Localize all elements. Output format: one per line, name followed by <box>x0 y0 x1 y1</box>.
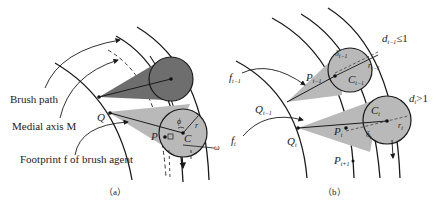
label-r-prev: rt−1 <box>368 62 380 71</box>
stroke-boundary-1-b <box>236 61 307 178</box>
label-f-t: ft <box>231 135 236 147</box>
diagram-canvas <box>0 0 442 205</box>
label-f-prev: ft−1 <box>229 72 241 84</box>
caption-b: （b） <box>323 188 346 197</box>
label-P-t: Pt <box>334 126 342 138</box>
label-omega: ω <box>214 144 220 152</box>
label-delta-t: δt <box>366 131 371 140</box>
label-d-prev: dt−1≤1 <box>382 33 408 45</box>
label-C: C <box>184 133 191 144</box>
label-delta-prev: δt−1 <box>335 50 347 59</box>
label-P: P <box>151 131 158 142</box>
label-P-next: Pt+1 <box>334 155 349 167</box>
label-Q: Q <box>97 112 105 123</box>
label-Q-t: Qt <box>287 136 297 148</box>
label-C-t: Ct <box>371 105 380 117</box>
label-medial-axis: Medial axis M <box>12 121 76 132</box>
label-brush-path: Brush path <box>10 94 58 105</box>
caption-a: （a） <box>104 188 126 197</box>
label-P-prev: Pt−1 <box>306 72 321 84</box>
label-Q-prev: Qt−1 <box>255 104 272 116</box>
label-C-prev: Ct−1 <box>348 74 364 86</box>
label-d-t: dt>1 <box>409 93 428 105</box>
label-r-t: rt <box>398 122 403 131</box>
label-footprint: Footprint f of brush agent <box>20 154 133 165</box>
label-phi: ϕ <box>177 118 181 126</box>
label-r: r <box>195 122 198 130</box>
